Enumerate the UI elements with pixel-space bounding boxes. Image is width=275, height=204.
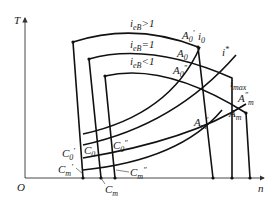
leader-cm: [101, 178, 105, 184]
n-axis-label: n: [258, 182, 264, 194]
t-axis-label: T: [14, 14, 21, 26]
label-ieb-eq-1: ieB=1: [130, 38, 154, 53]
label-istar: i*: [222, 45, 229, 58]
label-i0: i0: [198, 30, 205, 45]
label-ieb-gt-1: ieB>1: [130, 17, 154, 32]
label-c0-prime: C0′: [62, 147, 75, 162]
label-cm: Cm: [105, 183, 118, 198]
label-imax: imax: [230, 77, 247, 92]
label-cm-prime: Cm′: [58, 163, 73, 178]
origin-label: O: [17, 181, 25, 193]
leader-cm-dprime: [116, 170, 129, 172]
label-a0-dprime: A0″: [172, 64, 188, 79]
label-cm-dprime: Cm″: [130, 166, 147, 181]
torque-speed-diagram: T n O ieB>1 ieB=1 ieB<1 i0 i* imax A0′ A…: [0, 0, 275, 204]
label-ieb-lt-1: ieB<1: [130, 55, 154, 70]
